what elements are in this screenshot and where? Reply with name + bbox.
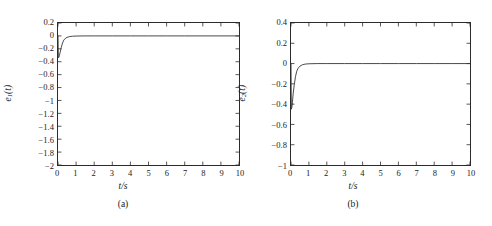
plot-panel-a: 0.20−0.2−0.4−0.6−0.8−1−1.2−1.4−1.6−1.8−2…: [0, 0, 246, 226]
x-tick-label: 2: [324, 168, 328, 178]
figure-container: 0.20−0.2−0.4−0.6−0.8−1−1.2−1.4−1.6−1.8−2…: [0, 0, 492, 226]
y-tick-label: −1.2: [39, 109, 54, 118]
y-tick-label: 0.2: [43, 18, 54, 27]
x-tick-label: 10: [467, 168, 476, 178]
y-tick-label: −1.4: [39, 122, 54, 131]
y-tick-label: −0.6: [272, 121, 287, 130]
x-tick-label: 7: [183, 168, 187, 178]
x-tick-label: 4: [128, 168, 132, 178]
y-axis-label-a-tail: (t): [3, 85, 13, 94]
x-tick-label: 6: [396, 168, 400, 178]
y-tick-label: −1: [278, 162, 287, 171]
x-tick-label: 1: [306, 168, 310, 178]
tick-marks-a: [58, 23, 239, 165]
plot-area-b: [290, 22, 471, 166]
plot-svg-a: [58, 23, 239, 165]
x-axis-ticks-a: 012345678910: [57, 168, 240, 180]
x-tick-label: 6: [165, 168, 169, 178]
y-axis-label-b-base: e: [237, 97, 247, 101]
y-axis-label-a-base: e: [3, 97, 13, 101]
x-tick-label: 10: [236, 168, 245, 178]
y-tick-label: 0.2: [276, 38, 287, 47]
x-tick-label: 0: [288, 168, 292, 178]
plot-area-a: [57, 22, 240, 166]
y-axis-label-b-tail: (t): [237, 85, 247, 94]
y-axis-label-a: e1(t): [3, 78, 14, 108]
y-tick-label: −2: [45, 162, 54, 171]
x-tick-label: 4: [360, 168, 364, 178]
x-tick-label: 8: [201, 168, 205, 178]
plot-panel-b: 0.40.20−0.2−0.4−0.6−0.8−1 e2(t) 01234567…: [246, 0, 492, 226]
y-axis-label-b: e2(t): [237, 78, 248, 108]
x-tick-label: 5: [378, 168, 382, 178]
y-tick-label: −0.4: [39, 57, 54, 66]
y-tick-label: −0.2: [39, 44, 54, 53]
y-axis-ticks-a: 0.20−0.2−0.4−0.6−0.8−1−1.2−1.4−1.6−1.8−2: [10, 22, 54, 166]
panel-caption-b: (b): [230, 199, 476, 209]
x-axis-label-b: t/s: [230, 181, 476, 191]
y-tick-label: 0.4: [276, 18, 287, 27]
x-axis-ticks-b: 012345678910: [290, 168, 471, 180]
y-tick-label: 0: [283, 59, 287, 68]
y-tick-label: −1.6: [39, 136, 54, 145]
y-tick-label: −0.8: [272, 141, 287, 150]
y-tick-label: −1: [45, 96, 54, 105]
x-axis-label-a: t/s: [0, 181, 246, 191]
y-axis-label-a-sub: 1: [6, 94, 13, 97]
y-tick-label: 0: [50, 31, 54, 40]
y-tick-label: −0.6: [39, 70, 54, 79]
y-tick-label: −0.8: [39, 83, 54, 92]
x-tick-label: 0: [55, 168, 59, 178]
y-tick-label: −1.8: [39, 149, 54, 158]
y-axis-ticks-b: 0.40.20−0.2−0.4−0.6−0.8−1: [246, 22, 287, 166]
data-series-e1: [58, 36, 239, 58]
x-tick-label: 3: [110, 168, 114, 178]
y-axis-label-b-sub: 2: [240, 94, 247, 97]
y-tick-label: −0.2: [272, 79, 287, 88]
x-tick-label: 5: [146, 168, 150, 178]
x-tick-label: 9: [220, 168, 224, 178]
data-series-e2: [291, 64, 470, 110]
x-tick-label: 1: [73, 168, 77, 178]
plot-svg-b: [291, 23, 470, 165]
x-tick-label: 8: [433, 168, 437, 178]
x-tick-label: 9: [451, 168, 455, 178]
x-tick-label: 2: [91, 168, 95, 178]
x-tick-label: 7: [415, 168, 419, 178]
x-tick-label: 3: [342, 168, 346, 178]
y-tick-label: −0.4: [272, 100, 287, 109]
tick-marks-b: [291, 23, 470, 165]
panel-caption-a: (a): [0, 199, 246, 209]
